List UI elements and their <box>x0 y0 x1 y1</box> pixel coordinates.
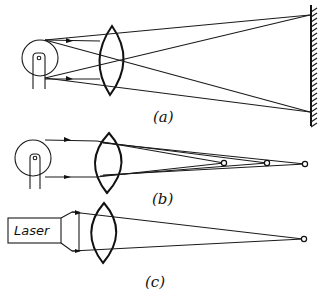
panel-label-c: (c) <box>145 273 165 291</box>
rays-c <box>72 212 303 251</box>
optics-diagram: (a) (b) <box>0 0 327 293</box>
focal-point <box>302 161 307 166</box>
panel-b: (b) <box>15 133 308 208</box>
focal-point <box>301 236 306 241</box>
panel-c: Laser (c) <box>8 203 307 291</box>
laser-device: Laser <box>8 212 79 251</box>
lamp-icon <box>22 40 58 89</box>
arrow-icon <box>66 38 73 81</box>
arrow-icon <box>75 210 81 253</box>
laser-label: Laser <box>14 223 51 238</box>
lamp-icon <box>15 140 51 189</box>
panel-label-b: (b) <box>152 190 173 208</box>
rays-b <box>45 140 305 177</box>
focal-point <box>264 160 269 165</box>
lens-b <box>95 133 122 193</box>
rays-a <box>45 15 310 112</box>
lens-c <box>91 203 116 263</box>
panel-label-a: (a) <box>153 108 174 126</box>
panel-a: (a) <box>22 5 317 127</box>
focal-point <box>221 160 226 165</box>
screen <box>311 5 317 127</box>
arrow-icon <box>64 137 71 179</box>
